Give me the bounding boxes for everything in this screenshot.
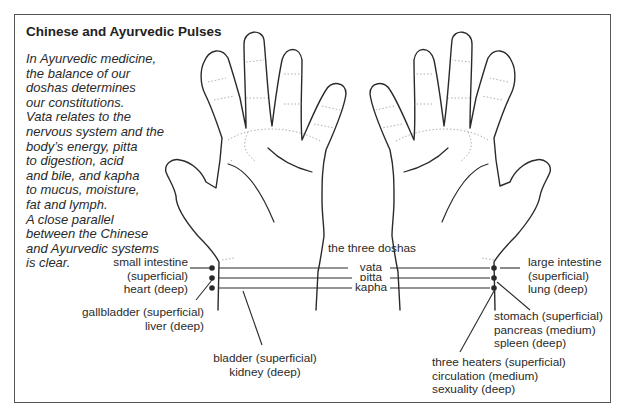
label-three-heaters-circulation-sexuality: three heaters (superficial) circulation … <box>432 356 566 397</box>
dosha-kapha: kapha <box>352 281 390 295</box>
label-large-intestine-lung: large intestine (superficial) lung (deep… <box>528 256 601 297</box>
doshas-heading: the three doshas <box>322 242 422 256</box>
label-stomach-pancreas-spleen: stomach (superficial) pancreas (medium) … <box>494 310 603 351</box>
pulse-point-dot <box>209 285 215 291</box>
label-bladder-kidney: bladder (superficial) kidney (deep) <box>200 352 330 379</box>
label-gallbladder-liver: gallbladder (superficial) liver (deep) <box>60 306 204 333</box>
pulse-point-dot <box>491 275 497 281</box>
pulse-point-dot <box>209 275 215 281</box>
pulse-point-dot <box>491 285 497 291</box>
label-small-intestine-heart: small intestine (superficial) heart (dee… <box>90 256 188 297</box>
pulse-point-dot <box>491 265 497 271</box>
pulse-point-dot <box>209 265 215 271</box>
